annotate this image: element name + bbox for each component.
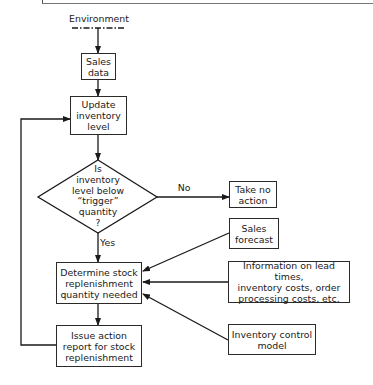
issue-report-box: Issue action report for stock replenishm… — [56, 325, 142, 367]
no-label: No — [172, 182, 196, 193]
decision-text: Is inventory level below “trigger” quant… — [62, 164, 134, 229]
sales-data-box: Sales data — [81, 53, 116, 80]
inventory-control-model-box: Inventory control model — [228, 324, 316, 355]
take-no-action-box: Take no action — [229, 181, 277, 208]
environment-label: Environment — [66, 13, 132, 24]
yes-label: Yes — [100, 237, 122, 248]
information-box: Information on lead times, inventory cos… — [228, 261, 350, 303]
determine-quantity-box: Determine stock replenishment quantity n… — [56, 262, 142, 304]
update-inventory-box: Update inventory level — [70, 96, 127, 135]
sales-forecast-box: Sales forecast — [229, 218, 279, 249]
